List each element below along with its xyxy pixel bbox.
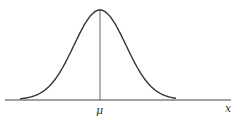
x-axis-label: x [225,102,232,115]
normal-distribution-diagram: μ x [0,0,235,121]
mean-label: μ [96,104,103,117]
bell-curve [20,10,176,99]
